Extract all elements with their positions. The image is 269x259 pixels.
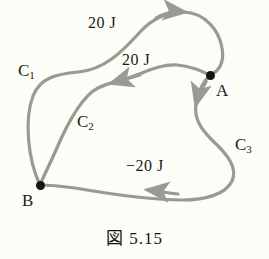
path-c2 (40, 65, 210, 185)
path-label-c1-subscript: 1 (29, 69, 35, 81)
path-label-c3: C3 (235, 136, 252, 153)
path-label-c3-letter: C (235, 135, 246, 154)
energy-label-c3: −20 J (126, 158, 164, 174)
figure-caption: 図 5.15 (0, 224, 269, 249)
figure-container: A B 20 J 20 J −20 J C1 C2 C3 図 5.15 (0, 0, 269, 259)
energy-label-c2: 20 J (122, 52, 150, 68)
energy-label-c1: 20 J (88, 15, 116, 31)
path-c3 (40, 75, 234, 200)
node-dot-b (36, 181, 45, 190)
c2-direction-arrow (112, 75, 140, 83)
node-label-a: A (216, 82, 228, 99)
path-label-c2: C2 (77, 113, 94, 130)
c3-lower-direction-arrow (148, 190, 178, 194)
path-label-c1-letter: C (18, 61, 29, 80)
node-label-b: B (22, 192, 33, 209)
path-label-c2-subscript: 2 (88, 120, 94, 132)
node-dot-a (206, 71, 215, 80)
path-label-c3-subscript: 3 (246, 143, 252, 155)
figure-diagram-canvas (0, 0, 269, 259)
path-label-c1: C1 (18, 62, 35, 79)
path-label-c2-letter: C (77, 112, 88, 131)
